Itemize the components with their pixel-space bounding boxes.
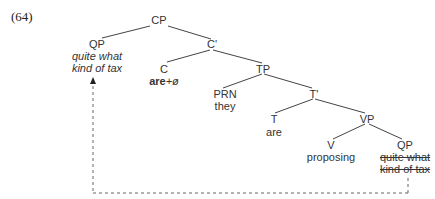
- t-word: are: [266, 126, 282, 138]
- c-word: are+ø: [149, 75, 179, 87]
- prn-word: they: [215, 100, 236, 112]
- node-c-bar: C': [207, 38, 217, 50]
- node-qp-spec: QP: [89, 38, 105, 50]
- c-word-bold: are: [149, 75, 166, 87]
- node-cp: CP: [151, 14, 166, 26]
- qp-trace-word-1: quite what: [380, 151, 430, 163]
- node-prn: PRN: [213, 88, 236, 100]
- node-tp: TP: [256, 63, 270, 75]
- node-v: V: [327, 139, 334, 151]
- c-word-suffix: +ø: [166, 75, 179, 87]
- qp-spec-word-1: quite what: [72, 50, 122, 62]
- node-vp: VP: [360, 113, 375, 125]
- node-t: T: [271, 113, 278, 125]
- node-qp-trace: QP: [397, 139, 413, 151]
- arrowhead-icon: [90, 77, 96, 84]
- syntax-tree-diagram: (64) CP QP quite what kind of tax C' C a…: [0, 0, 435, 199]
- example-number: (64): [11, 9, 33, 25]
- qp-spec-word-2: kind of tax: [72, 62, 122, 74]
- node-c: C: [160, 63, 168, 75]
- qp-trace-word-2: kind of tax: [380, 163, 430, 175]
- v-word: proposing: [307, 151, 355, 163]
- node-t-bar: T': [310, 88, 319, 100]
